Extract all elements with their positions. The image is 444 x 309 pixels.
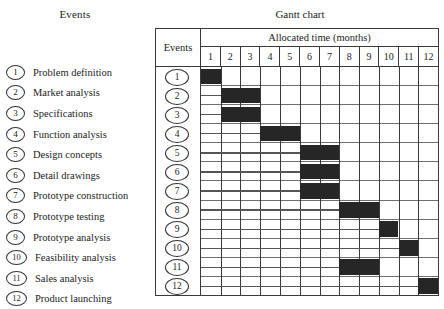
header-cell-allocated-time: Allocated time (months) — [201, 29, 438, 47]
legend-item: 4Function analysis — [6, 124, 150, 145]
gantt-grid-column-line — [260, 67, 261, 295]
events-legend-panel: Events 1Problem definition2Market analys… — [0, 0, 150, 304]
month-header-cell: 3 — [240, 47, 260, 66]
gantt-task-bar — [339, 259, 378, 275]
gantt-table-header: Events Allocated time (months) 123456789… — [156, 29, 438, 67]
legend-item: 3Specifications — [6, 103, 150, 124]
gantt-row-number: 11 — [165, 259, 189, 276]
gantt-grid-column-line — [320, 67, 321, 295]
legend-item-label: Design concepts — [33, 149, 102, 160]
events-panel-title: Events — [0, 8, 150, 20]
month-header-cell: 11 — [398, 47, 418, 66]
gantt-row-number: 4 — [165, 126, 189, 143]
events-legend-list: 1Problem definition2Market analysis3Spec… — [6, 62, 150, 309]
gantt-chart-title: Gantt chart — [158, 8, 442, 20]
gantt-task-bar — [300, 145, 339, 161]
legend-item: 7Prototype construction — [6, 186, 150, 207]
legend-item-number: 1 — [6, 65, 25, 80]
gantt-row-number: 2 — [165, 88, 189, 105]
gantt-leader-line — [201, 171, 300, 172]
gantt-row-number: 5 — [165, 145, 189, 162]
legend-item-number: 6 — [6, 168, 25, 183]
legend-item-number: 8 — [6, 209, 25, 224]
gantt-leader-line — [201, 248, 399, 249]
gantt-row-label-column: 123456789101112 — [156, 67, 201, 295]
legend-item-number: 11 — [6, 271, 27, 286]
legend-item-label: Feasibility analysis — [35, 252, 116, 263]
gantt-row-number: 8 — [165, 202, 189, 219]
header-month-row: 123456789101112 — [201, 47, 438, 67]
legend-item: 11Sales analysis — [6, 268, 150, 289]
gantt-task-bar — [300, 164, 339, 180]
gantt-row-number: 3 — [165, 107, 189, 124]
legend-item: 12Product launching — [6, 289, 150, 309]
gantt-task-bar — [201, 69, 221, 85]
legend-item-number: 9 — [6, 230, 25, 245]
legend-item-label: Specifications — [33, 108, 92, 119]
legend-item: 8Prototype testing — [6, 206, 150, 227]
header-cell-events: Events — [156, 29, 201, 67]
gantt-task-bar — [379, 221, 399, 237]
month-header-cell: 1 — [201, 47, 220, 66]
month-header-cell: 8 — [339, 47, 359, 66]
gantt-grid-column-line — [399, 67, 400, 295]
gantt-task-bar — [300, 183, 339, 199]
gantt-row-number: 9 — [165, 221, 189, 238]
gantt-task-bar — [339, 202, 378, 218]
month-header-cell: 12 — [418, 47, 438, 66]
gantt-task-bar — [221, 88, 260, 104]
gantt-leader-line — [201, 133, 260, 134]
month-header-cell: 9 — [359, 47, 379, 66]
legend-item: 2Market analysis — [6, 83, 150, 104]
month-header-cell: 2 — [220, 47, 240, 66]
gantt-leader-line — [201, 95, 221, 96]
gantt-leader-line — [201, 209, 339, 210]
legend-item-label: Product launching — [35, 293, 112, 304]
legend-item-number: 5 — [6, 147, 25, 162]
gantt-grid-column-line — [280, 67, 281, 295]
gantt-grid-column-line — [300, 67, 301, 295]
month-header-cell: 10 — [378, 47, 398, 66]
gantt-plot-grid — [201, 67, 438, 295]
gantt-grid-column-line — [379, 67, 380, 295]
legend-item-number: 2 — [6, 85, 25, 100]
gantt-row-number: 10 — [165, 240, 189, 257]
month-header-cell: 6 — [299, 47, 319, 66]
legend-item: 6Detail drawings — [6, 165, 150, 186]
gantt-leader-line — [201, 152, 300, 153]
legend-item-label: Prototype construction — [33, 190, 128, 201]
legend-item-label: Function analysis — [33, 129, 107, 140]
legend-item-number: 3 — [6, 106, 25, 121]
gantt-leader-line — [201, 114, 221, 115]
gantt-task-bar — [399, 240, 419, 256]
gantt-row-number: 6 — [165, 164, 189, 181]
gantt-task-bar — [260, 126, 299, 142]
legend-item-number: 4 — [6, 127, 25, 142]
gantt-task-bar — [418, 278, 438, 294]
legend-item: 5Design concepts — [6, 144, 150, 165]
gantt-chart-table: Events Allocated time (months) 123456789… — [155, 28, 439, 296]
month-header-cell: 7 — [319, 47, 339, 66]
gantt-leader-line — [201, 267, 339, 268]
legend-item-label: Problem definition — [33, 67, 112, 78]
gantt-table-body: 123456789101112 — [156, 67, 438, 295]
gantt-leader-line — [201, 286, 418, 287]
legend-item-label: Sales analysis — [35, 273, 94, 284]
legend-item: 9Prototype analysis — [6, 227, 150, 248]
gantt-leader-line — [201, 229, 379, 230]
legend-item-number: 12 — [6, 291, 27, 306]
legend-item-label: Detail drawings — [33, 170, 100, 181]
legend-item-number: 7 — [6, 188, 25, 203]
legend-item-label: Prototype testing — [33, 211, 104, 222]
month-header-cell: 4 — [259, 47, 279, 66]
gantt-row-number: 7 — [165, 183, 189, 200]
gantt-leader-line — [201, 190, 300, 191]
legend-item-label: Market analysis — [33, 87, 100, 98]
gantt-grid-column-line — [418, 67, 419, 295]
legend-item-label: Prototype analysis — [33, 232, 110, 243]
gantt-task-bar — [221, 107, 260, 123]
legend-item: 10Feasibility analysis — [6, 247, 150, 268]
legend-item: 1Problem definition — [6, 62, 150, 83]
legend-item-number: 10 — [6, 250, 27, 265]
gantt-row-number: 1 — [165, 69, 189, 86]
